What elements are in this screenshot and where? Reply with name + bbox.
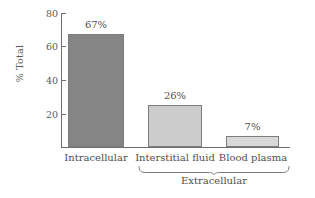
group-label-extracellular: Extracellular xyxy=(138,175,290,186)
y-tick-label-60: 60 xyxy=(34,42,58,52)
y-tick-label-40: 40 xyxy=(34,76,58,86)
category-label-intracellular: Intracellular xyxy=(56,152,136,163)
extracellular-brace-icon xyxy=(138,166,290,175)
y-tick-mark-40 xyxy=(61,80,66,81)
bar-chart-figure: % Total 80 60 40 20 67% 26% 7% Intracell… xyxy=(0,0,315,198)
bar-interstitial-fluid[interactable] xyxy=(148,105,202,147)
category-label-interstitial-fluid: Interstitial fluid xyxy=(135,152,215,163)
y-tick-mark-80 xyxy=(61,13,66,14)
y-tick-label-20: 20 xyxy=(34,110,58,120)
y-tick-mark-20 xyxy=(61,114,66,115)
bar-intracellular[interactable] xyxy=(68,34,124,147)
value-label-interstitial-fluid: 26% xyxy=(148,91,202,101)
bar-blood-plasma[interactable] xyxy=(226,136,279,147)
value-label-blood-plasma: 7% xyxy=(226,122,279,132)
y-axis-label: % Total xyxy=(14,34,25,94)
x-axis-line xyxy=(61,147,290,148)
category-label-blood-plasma: Blood plasma xyxy=(216,152,290,163)
y-tick-mark-60 xyxy=(61,46,66,47)
y-tick-label-80: 80 xyxy=(34,9,58,19)
y-tick-label-group: 80 60 40 20 xyxy=(30,0,58,198)
value-label-intracellular: 67% xyxy=(68,20,124,30)
